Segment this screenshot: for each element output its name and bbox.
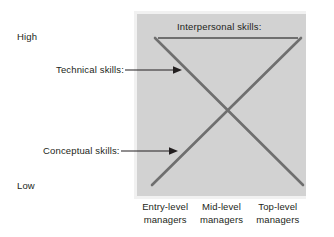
callout-conceptual-skills: Conceptual skills: (43, 145, 180, 156)
skills-mix-diagram: High Low Interpersonal skills: Technical… (0, 0, 334, 237)
x-axis-category-top-level: Top-level managers (250, 201, 306, 226)
x-axis-category-top-level-line1: Top-level (250, 201, 306, 214)
plot-panel (137, 14, 306, 196)
x-axis-category-entry-level-line1: Entry-level (137, 201, 193, 214)
x-axis-category-entry-level: Entry-level managers (137, 201, 193, 226)
x-axis-category-top-level-line2: managers (250, 214, 306, 227)
y-axis-label-high: High (17, 31, 37, 42)
callout-conceptual-skills-label: Conceptual skills: (43, 145, 120, 156)
x-axis-category-mid-level-line1: Mid-level (193, 201, 249, 214)
x-axis-category-mid-level-line2: managers (193, 214, 249, 227)
y-axis-label-low: Low (17, 180, 35, 191)
x-axis-category-entry-level-line2: managers (137, 214, 193, 227)
callout-technical-skills: Technical skills: (56, 64, 184, 75)
callout-technical-skills-label: Technical skills: (56, 64, 124, 75)
x-axis-category-labels: Entry-level managers Mid-level managers … (137, 201, 306, 226)
arrow-right-icon (120, 146, 180, 156)
series-label-interpersonal-skills: Interpersonal skills: (177, 21, 261, 32)
arrow-right-icon (124, 65, 184, 75)
x-axis-category-mid-level: Mid-level managers (193, 201, 249, 226)
